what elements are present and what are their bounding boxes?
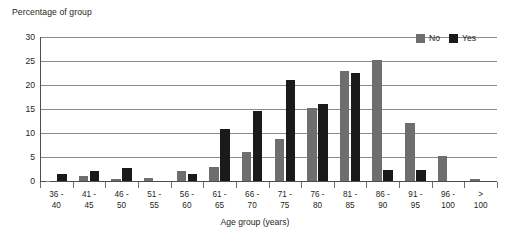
x-tick-label-line: 55 [138,200,171,211]
x-tick-label-line: 100 [464,200,497,211]
x-tick-label-line: 45 [73,200,106,211]
x-tick-label-line: 85 [334,200,367,211]
x-tick-label-line: 100 [432,200,465,211]
x-tick-label: 36 -40 [40,189,73,211]
x-tick-label-line: 40 [40,200,73,211]
legend-item-no[interactable]: No [416,33,440,43]
x-tick-label: >100 [464,189,497,211]
x-tick-label-line: 81 - [334,189,367,200]
x-tick-label-line: 95 [399,200,432,211]
legend-label: Yes [462,33,476,43]
x-tick-label-line: 70 [236,200,269,211]
x-axis-title: Age group (years) [0,217,510,227]
x-tick-label: 66 -70 [236,189,269,211]
x-tick-mark [138,182,139,188]
x-tick-label-line: 60 [171,200,204,211]
x-tick-mark [301,182,302,188]
x-tick-mark [366,182,367,188]
x-tick-label-line: 76 - [301,189,334,200]
x-tick-label: 81 -85 [334,189,367,211]
x-tick-label-line: 61 - [203,189,236,200]
x-tick-label-line: 71 - [269,189,302,200]
x-tick-label: 61 -65 [203,189,236,211]
x-tick-mark [40,182,41,188]
x-tick-label-line: 41 - [73,189,106,200]
x-tick-label: 41 -45 [73,189,106,211]
x-tick-mark [334,182,335,188]
x-tick-label-line: 80 [301,200,334,211]
x-tick-label: 76 -80 [301,189,334,211]
x-tick-label-line: 66 - [236,189,269,200]
x-tick-label-line: 96 - [432,189,465,200]
x-tick-label: 46 -50 [105,189,138,211]
x-tick-label-line: 86 - [366,189,399,200]
x-tick-label-line: 56 - [171,189,204,200]
x-tick-label-line: 75 [269,200,302,211]
x-tick-label-line: 51 - [138,189,171,200]
x-tick-mark [105,182,106,188]
legend-swatch-icon [416,34,425,43]
x-tick-mark [464,182,465,188]
legend-label: No [429,33,440,43]
x-tick-label-line: 90 [366,200,399,211]
x-tick-mark [73,182,74,188]
x-tick-label: 56 -60 [171,189,204,211]
x-tick-mark [171,182,172,188]
x-tick-label-line: 36 - [40,189,73,200]
x-tick-label: 51 -55 [138,189,171,211]
x-tick-label-line: 91 - [399,189,432,200]
x-tick-mark [236,182,237,188]
x-tick-label: 86 -90 [366,189,399,211]
x-tick-mark [399,182,400,188]
legend-swatch-icon [449,34,458,43]
x-tick-label: 91 -95 [399,189,432,211]
x-tick-mark [432,182,433,188]
x-tick-mark [497,182,498,188]
x-tick-label-line: 46 - [105,189,138,200]
legend-item-yes[interactable]: Yes [449,33,476,43]
x-tick-label-line: > [464,189,497,200]
x-tick-label-line: 50 [105,200,138,211]
x-tick-mark [203,182,204,188]
x-tick-mark [269,182,270,188]
chart-legend: NoYes [416,33,476,43]
bar-chart: Percentage of group 051015202530 36 -404… [0,0,510,242]
x-tick-label: 96 -100 [432,189,465,211]
x-tick-label-line: 65 [203,200,236,211]
x-tick-label: 71 -75 [269,189,302,211]
